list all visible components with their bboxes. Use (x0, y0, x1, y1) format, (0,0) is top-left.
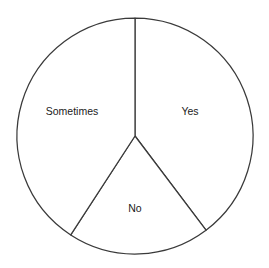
pie-slice-label-sometimes: Sometimes (46, 105, 99, 117)
pie-slice-label-no: No (128, 202, 142, 214)
pie-chart-svg: YesNoSometimes (0, 0, 269, 268)
pie-chart-figure: YesNoSometimes (0, 0, 269, 268)
pie-slice-label-yes: Yes (181, 105, 198, 117)
